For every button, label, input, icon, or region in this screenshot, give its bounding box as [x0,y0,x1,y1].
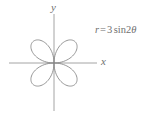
rose-petal-lower-left [31,63,54,86]
y-axis-label: y [51,2,56,13]
axes-group [9,14,97,111]
polar-rose-figure: y x r=3sin2θ [0,0,159,114]
equation-function: sin [112,24,126,35]
rose-petal-upper-left [54,63,77,86]
equation-angle: θ [131,24,136,35]
rose-petal-lower-right [31,40,54,63]
polar-equation-label: r=3sin2θ [95,25,136,36]
rose-petal-upper-right [54,40,77,63]
polar-plot-canvas [0,0,159,114]
x-axis-label: x [101,56,106,67]
equation-equals: = [99,24,107,35]
